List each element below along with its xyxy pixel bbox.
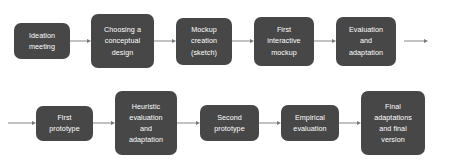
node-choosing-conceptual-design[interactable]: Choosing aconceptualdesign	[91, 14, 154, 68]
node-second-prototype-label: Secondprototype	[204, 112, 255, 134]
arrow-first-interactive-mockup-to-evaluation	[314, 37, 336, 45]
node-mockup-creation-sketch-label: Mockupcreation(sketch)	[180, 24, 228, 57]
arrow-shaft	[259, 123, 277, 124]
node-second-prototype[interactable]: Secondprototype	[200, 105, 259, 141]
node-first-prototype-label: Firstprototype	[40, 112, 89, 134]
arrow-row-1-continue-to-row-2	[404, 37, 428, 45]
arrow-heuristic-evaluation-to-second-prototype	[177, 119, 200, 127]
arrow-shaft	[339, 123, 357, 124]
node-heuristic-evaluation-and-adaptation-label: Heuristicevaluationandadaptation	[119, 101, 173, 146]
arrow-row-2-continued-from-row-1	[8, 119, 36, 127]
arrow-second-prototype-to-empirical-evaluation	[259, 119, 281, 127]
node-evaluation-and-adaptation[interactable]: Evaluationandadaptation	[336, 17, 396, 66]
arrow-shaft	[154, 41, 172, 42]
node-choosing-conceptual-design-label: Choosing aconceptualdesign	[95, 24, 150, 57]
arrow-head-icon	[424, 39, 428, 43]
arrow-head-icon	[357, 121, 361, 125]
node-final-adaptations-and-final-version[interactable]: Finaladaptationsand finalversion	[361, 91, 425, 155]
flowchart-row-1: Ideationmeeting Choosing aconceptualdesi…	[0, 0, 470, 82]
arrow-shaft	[70, 41, 87, 42]
node-empirical-evaluation-label: Empiricalevaluation	[285, 112, 335, 134]
arrow-shaft	[404, 41, 424, 42]
arrow-head-icon	[111, 121, 115, 125]
arrow-head-icon	[250, 39, 254, 43]
arrow-empirical-evaluation-to-final-adaptations	[339, 119, 361, 127]
arrow-head-icon	[32, 121, 36, 125]
flowchart-row-2: Firstprototype Heuristicevaluationandada…	[0, 82, 470, 164]
arrow-shaft	[8, 123, 32, 124]
arrow-head-icon	[332, 39, 336, 43]
arrow-ideation-to-conceptual-design	[70, 37, 91, 45]
node-mockup-creation-sketch[interactable]: Mockupcreation(sketch)	[176, 18, 232, 65]
arrow-head-icon	[172, 39, 176, 43]
arrow-head-icon	[87, 39, 91, 43]
arrow-head-icon	[277, 121, 281, 125]
node-first-prototype[interactable]: Firstprototype	[36, 106, 93, 141]
node-empirical-evaluation[interactable]: Empiricalevaluation	[281, 105, 339, 141]
arrow-mockup-creation-to-first-interactive-mockup	[232, 37, 254, 45]
arrow-first-prototype-to-heuristic-evaluation	[93, 119, 115, 127]
node-ideation-meeting-label: Ideationmeeting	[18, 30, 66, 52]
node-first-interactive-mockup-label: Firstinteractivemockup	[258, 24, 310, 57]
arrow-shaft	[177, 123, 196, 124]
arrow-head-icon	[196, 121, 200, 125]
node-first-interactive-mockup[interactable]: Firstinteractivemockup	[254, 17, 314, 66]
arrow-conceptual-design-to-mockup-creation	[154, 37, 176, 45]
node-ideation-meeting[interactable]: Ideationmeeting	[14, 23, 70, 59]
arrow-shaft	[314, 41, 332, 42]
arrow-shaft	[93, 123, 111, 124]
arrow-shaft	[232, 41, 250, 42]
node-final-adaptations-and-final-version-label: Finaladaptationsand finalversion	[365, 101, 421, 146]
flowchart-diagram: Ideationmeeting Choosing aconceptualdesi…	[0, 0, 470, 164]
node-heuristic-evaluation-and-adaptation[interactable]: Heuristicevaluationandadaptation	[115, 91, 177, 155]
node-evaluation-and-adaptation-label: Evaluationandadaptation	[340, 24, 392, 57]
